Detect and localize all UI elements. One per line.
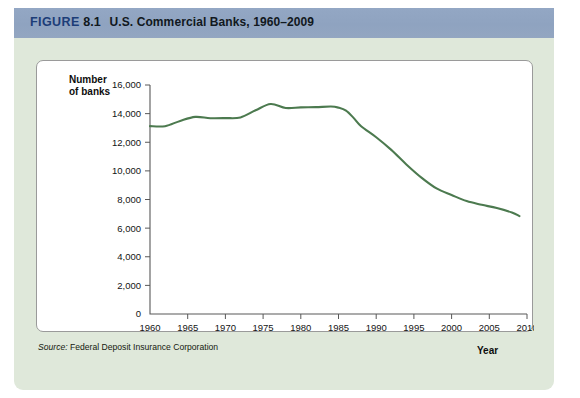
y-tick-label: 14,000 — [112, 108, 141, 119]
x-tick-label: 1995 — [403, 322, 424, 333]
y-tick-label: 16,000 — [112, 79, 141, 90]
axis-lines — [150, 85, 527, 314]
x-tick-label: 1990 — [366, 322, 387, 333]
x-tick-label: 1985 — [328, 322, 349, 333]
figure-title: U.S. Commercial Banks, 1960–2009 — [109, 15, 314, 29]
figure-root: FIGURE 8.1 U.S. Commercial Banks, 1960–2… — [14, 8, 554, 390]
x-tick-label: 2000 — [441, 322, 462, 333]
y-tick-label: 4,000 — [117, 251, 141, 262]
figure-header-bar: FIGURE 8.1 U.S. Commercial Banks, 1960–2… — [14, 8, 554, 38]
x-tick-label: 1970 — [215, 322, 236, 333]
figure-number: 8.1 — [83, 15, 101, 29]
x-axis-title: Year — [477, 345, 498, 357]
y-tick-label: 6,000 — [117, 223, 141, 234]
source-label: Source: — [38, 342, 68, 352]
y-axis-ticks: 02,0004,0006,0008,00010,00012,00014,0001… — [112, 79, 150, 319]
line-chart-plot: 02,0004,0006,0008,00010,00012,00014,0001… — [37, 61, 534, 333]
x-tick-label: 1965 — [177, 322, 198, 333]
y-tick-label: 2,000 — [117, 280, 141, 291]
source-note: Source: Federal Deposit Insurance Corpor… — [38, 342, 218, 352]
x-tick-label: 2005 — [479, 322, 500, 333]
figure-header-text: FIGURE 8.1 U.S. Commercial Banks, 1960–2… — [30, 15, 314, 29]
x-tick-label: 1960 — [139, 322, 160, 333]
x-tick-label: 1975 — [253, 322, 274, 333]
x-tick-label: 1980 — [290, 322, 311, 333]
x-tick-label: 2010 — [516, 322, 534, 333]
x-axis-ticks: 1960196519701975198019851990199520002005… — [139, 314, 534, 333]
y-tick-label: 10,000 — [112, 165, 141, 176]
y-tick-label: 8,000 — [117, 194, 141, 205]
chart-card: Number of banks Year 02,0004,0006,0008,0… — [36, 60, 533, 332]
y-tick-label: 12,000 — [112, 137, 141, 148]
data-series-line — [150, 104, 519, 216]
figure-word: FIGURE — [30, 15, 80, 29]
source-text: Federal Deposit Insurance Corporation — [70, 342, 218, 352]
y-tick-label: 0 — [136, 308, 141, 319]
